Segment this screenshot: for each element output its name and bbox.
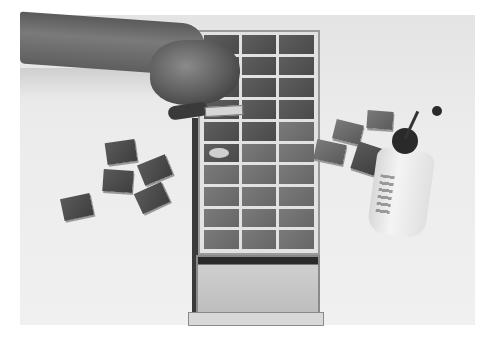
tile (279, 57, 314, 76)
tile (242, 122, 277, 141)
held-tile (205, 105, 243, 117)
bottle-cap (392, 128, 418, 154)
tile-with-emblem (204, 144, 239, 163)
drawer-front-panel (188, 312, 324, 326)
tile (204, 187, 239, 206)
loose-tile (102, 169, 133, 193)
tray-drawer (196, 255, 320, 317)
tile (204, 230, 239, 249)
photograph (0, 0, 495, 341)
glue-bottle (366, 146, 435, 239)
tile (242, 144, 277, 163)
loose-tile (366, 110, 393, 130)
tile (242, 230, 277, 249)
tile (279, 209, 314, 228)
tile (242, 57, 277, 76)
tile (279, 35, 314, 54)
tile (204, 165, 239, 184)
tile (279, 78, 314, 97)
tile (204, 209, 239, 228)
tile (279, 230, 314, 249)
nozzle-tip (432, 106, 442, 116)
tile (242, 165, 277, 184)
tile (279, 100, 314, 119)
tile (279, 122, 314, 141)
tile (279, 165, 314, 184)
tile (204, 122, 239, 141)
loose-tile (105, 139, 138, 165)
tile (242, 100, 277, 119)
tile (242, 78, 277, 97)
tile (242, 35, 277, 54)
tile (279, 144, 314, 163)
tile (242, 209, 277, 228)
tile (279, 187, 314, 206)
hand (150, 40, 240, 105)
tile (242, 187, 277, 206)
